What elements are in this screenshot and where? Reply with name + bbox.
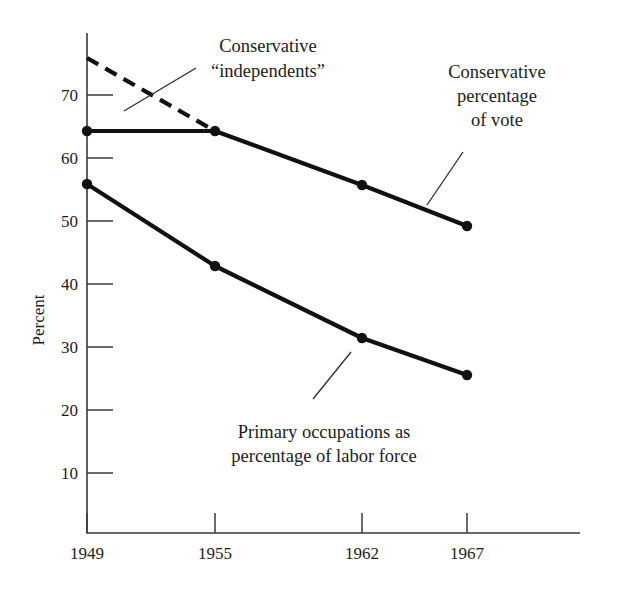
data-point-conservative-1949 — [82, 126, 92, 136]
x-tick-label-1967: 1967 — [450, 544, 485, 563]
y-tick-label-30: 30 — [61, 338, 78, 357]
annotation-label-independents-line1: Conservative — [219, 36, 317, 56]
annotation-label-primary-line2: percentage of labor force — [231, 446, 416, 466]
y-tick-label-50: 50 — [61, 212, 78, 231]
data-point-primary-1955 — [210, 261, 220, 271]
y-tick-label-10: 10 — [61, 464, 78, 483]
leader-line-conservative-independents — [124, 68, 196, 111]
series-line-primary-occupations — [87, 184, 467, 375]
annotation-label-independents-line2: “independents” — [211, 61, 325, 81]
data-point-conservative-1962 — [357, 180, 367, 190]
y-axis-title: Percent — [29, 294, 48, 345]
annotation-label-vote-line1: Conservative — [448, 62, 546, 82]
annotation-label-vote-line3: of vote — [471, 110, 523, 130]
chart-figure: 70 60 50 40 30 20 10 1949 1955 1962 1967… — [0, 0, 621, 589]
y-tick-marks — [87, 95, 113, 473]
x-tick-label-1955: 1955 — [198, 544, 232, 563]
annotation-label-vote-line2: percentage — [457, 86, 537, 106]
y-tick-label-20: 20 — [61, 401, 78, 420]
y-tick-labels: 70 60 50 40 30 20 10 — [61, 86, 78, 483]
leader-line-conservative-vote — [427, 152, 463, 205]
y-tick-label-60: 60 — [61, 149, 78, 168]
series-primary-occupations — [82, 179, 472, 380]
x-tick-marks — [87, 513, 467, 533]
annotation-conservative-percentage-of-vote: Conservative percentage of vote — [427, 62, 546, 205]
x-tick-label-1962: 1962 — [345, 544, 379, 563]
x-tick-labels: 1949 1955 1962 1967 — [70, 544, 485, 563]
y-tick-label-70: 70 — [61, 86, 78, 105]
x-tick-label-1949: 1949 — [70, 544, 104, 563]
leader-line-primary-occupations — [313, 352, 351, 399]
y-tick-label-40: 40 — [61, 275, 78, 294]
annotation-primary-occupations: Primary occupations as percentage of lab… — [231, 352, 416, 466]
annotation-conservative-independents: Conservative “independents” — [124, 36, 325, 111]
line-chart: 70 60 50 40 30 20 10 1949 1955 1962 1967… — [0, 0, 621, 589]
annotation-label-primary-line1: Primary occupations as — [238, 422, 411, 442]
data-point-primary-1967 — [462, 370, 472, 380]
data-point-primary-1949 — [82, 179, 92, 189]
data-point-conservative-1967 — [462, 221, 472, 231]
series-line-conservative-vote — [87, 131, 467, 226]
data-point-conservative-1955 — [210, 126, 220, 136]
data-point-primary-1962 — [357, 333, 367, 343]
series-conservative-percentage-of-vote — [82, 126, 472, 231]
